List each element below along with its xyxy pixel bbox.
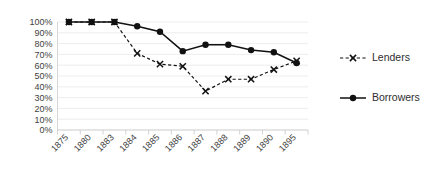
data-point-borrowers [88,19,94,25]
y-axis-tick-label: 40% [34,82,52,92]
x-axis-tick-label: 1880 [72,132,93,153]
data-point-lenders [157,61,163,67]
data-point-lenders [202,88,208,94]
y-axis-tick-label: 70% [34,50,52,60]
chart-container: 100%90%80%70%60%50%40%30%20%10%0% 187518… [0,0,442,179]
data-point-borrowers [111,19,117,25]
y-axis-tick-label: 50% [34,71,52,81]
x-axis-tick-label: 1885 [140,132,161,153]
x-axis-tick-label: 1889 [231,132,252,153]
data-point-borrowers [202,41,208,47]
legend-group: LendersBorrowers [340,51,420,103]
data-point-borrowers [293,60,299,66]
y-axis-tick-label: 80% [34,39,52,49]
x-axis-tick-label: 1875 [49,132,70,153]
data-point-lenders [248,76,254,82]
x-axis-tick-label: 1887 [186,132,207,153]
data-point-lenders [225,76,231,82]
y-axis-tick-label: 60% [34,61,52,71]
y-axis-tick-label: 100% [29,17,52,27]
x-axis-labels-group: 1875188018831884188518861887188818891890… [49,132,298,153]
legend-item-lenders[interactable]: Lenders [340,51,410,63]
series-line-lenders [69,22,297,91]
y-axis-tick-label: 30% [34,93,52,103]
data-point-borrowers [271,49,277,55]
y-axis-tick-label: 0% [39,125,52,135]
legend-label: Borrowers [372,91,420,103]
data-point-borrowers [180,48,186,54]
x-axis-tick-label: 1888 [208,132,229,153]
y-axis-tick-label: 90% [34,28,52,38]
gridlines-group [58,22,309,130]
y-axis-tick-label: 10% [34,115,52,125]
x-axis-tick-label: 1883 [95,132,116,153]
x-axis-tick-label: 1884 [117,132,138,153]
data-point-borrowers [66,19,72,25]
legend-item-borrowers[interactable]: Borrowers [340,91,420,103]
legend-marker-x-icon [350,55,356,61]
data-point-lenders [134,50,140,56]
x-tickmarks-group [58,130,309,135]
data-point-borrowers [134,23,140,29]
data-point-borrowers [157,29,163,35]
legend-marker-circle-icon [350,95,356,101]
y-axis-labels-group: 100%90%80%70%60%50%40%30%20%10%0% [29,17,52,135]
data-point-borrowers [225,41,231,47]
line-chart: 100%90%80%70%60%50%40%30%20%10%0% 187518… [0,0,442,179]
x-axis-tick-label: 1895 [277,132,298,153]
x-axis-tick-label: 1886 [163,132,184,153]
y-axis-tick-label: 20% [34,104,52,114]
data-point-borrowers [248,47,254,53]
x-axis-tick-label: 1890 [254,132,275,153]
legend-label: Lenders [372,51,410,63]
series-line-borrowers [69,22,297,63]
data-point-lenders [271,66,277,72]
series-group [66,19,300,94]
